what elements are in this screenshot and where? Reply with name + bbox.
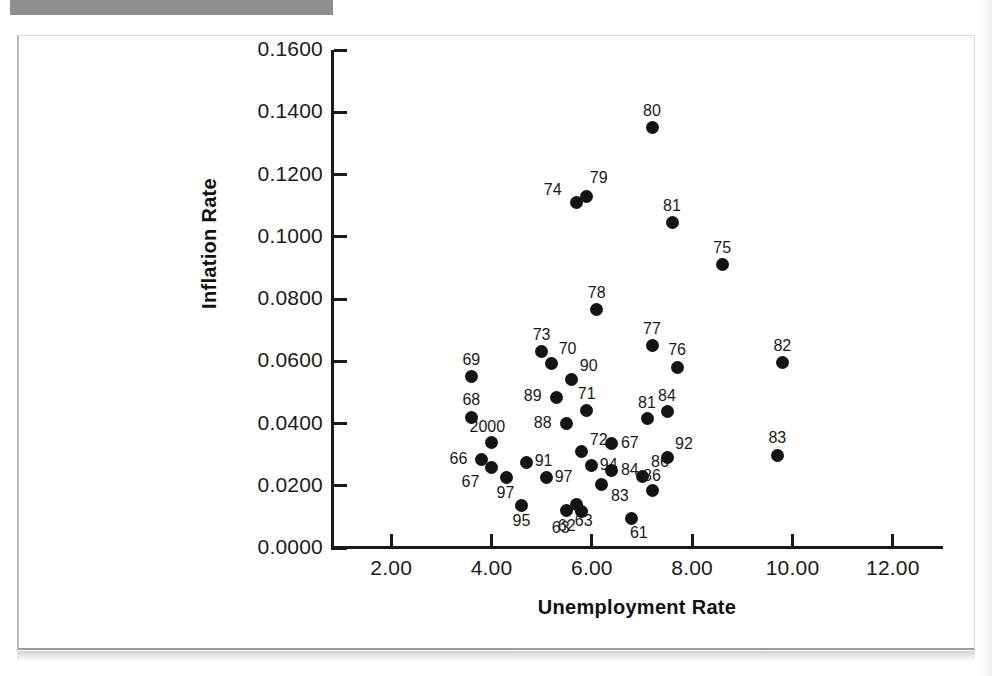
scan-artifact-gray-bar [10, 0, 333, 15]
data-point [641, 412, 654, 425]
x-axis-tick [691, 534, 694, 547]
data-point-label: 82 [773, 338, 791, 354]
data-point-label: 70 [559, 341, 577, 357]
x-axis-title: Unemployment Rate [331, 596, 943, 619]
data-point [716, 258, 729, 271]
scan-artifact-right-edge [978, 0, 992, 676]
data-point [550, 391, 563, 404]
y-axis-tick [334, 49, 347, 52]
y-axis-title: Inflation Rate [198, 144, 221, 344]
data-point [575, 505, 588, 518]
data-point-label: 69 [462, 352, 480, 368]
data-point-label: 63 [552, 520, 570, 536]
x-axis-tick [891, 534, 894, 547]
data-point-label: 81 [638, 395, 656, 411]
y-axis-tick-label: 0.0200 [213, 473, 323, 497]
y-axis-tick [334, 235, 347, 238]
data-point-label: 92 [675, 436, 693, 452]
data-point-label: 67 [621, 435, 639, 451]
data-point-label: 66 [449, 451, 467, 467]
data-point-label: 71 [578, 386, 596, 402]
data-point-label: 86 [643, 468, 661, 484]
data-point [520, 456, 533, 469]
y-axis-tick-label: 0.1000 [213, 224, 323, 248]
y-axis-tick-label: 0.1600 [213, 37, 323, 61]
data-point-label: 72 [590, 432, 608, 448]
data-point-label: 2000 [470, 419, 506, 435]
y-axis-tick-label: 0.1200 [213, 162, 323, 186]
data-point-label: 76 [668, 342, 686, 358]
data-point-label: 83 [611, 488, 629, 504]
data-point-label: 88 [534, 415, 552, 431]
data-point-label: 73 [533, 327, 551, 343]
data-point [646, 339, 659, 352]
x-axis-line [331, 546, 943, 549]
data-point-label: 80 [643, 103, 661, 119]
data-point-label: 97 [497, 485, 515, 501]
data-point-label: 95 [513, 513, 531, 529]
data-point [771, 449, 784, 462]
y-axis-tick-label: 0.0800 [213, 286, 323, 310]
y-axis-tick-label: 0.0000 [213, 535, 323, 559]
data-point [671, 361, 684, 374]
y-axis-tick [334, 173, 347, 176]
scan-artifact-bottom-edge [17, 651, 975, 660]
data-point-label: 97 [555, 469, 573, 485]
y-axis-tick [334, 360, 347, 363]
data-point [595, 478, 608, 491]
data-point-label: 77 [643, 321, 661, 337]
data-point [646, 484, 659, 497]
y-axis-tick [334, 422, 347, 425]
data-point-label: 75 [713, 240, 731, 256]
data-point-label: 91 [535, 453, 553, 469]
data-point-label: 83 [768, 430, 786, 446]
data-point-label: 79 [590, 170, 608, 186]
data-point-label: 61 [630, 525, 648, 541]
data-point-label: 78 [588, 285, 606, 301]
data-point-label: 81 [663, 198, 681, 214]
data-point-label: 68 [462, 392, 480, 408]
data-point-label: 89 [524, 388, 542, 404]
y-axis-tick [334, 111, 347, 114]
y-axis-tick-label: 0.0400 [213, 411, 323, 435]
data-point [666, 216, 679, 229]
y-axis-tick [334, 547, 347, 550]
data-point-label: 84 [658, 388, 676, 404]
x-axis-tick [791, 534, 794, 547]
data-point-label: 74 [544, 182, 562, 198]
x-axis-tick [490, 534, 493, 547]
x-axis-tick [390, 534, 393, 547]
data-point [485, 461, 498, 474]
y-axis-tick [334, 298, 347, 301]
data-point-label: 90 [580, 358, 598, 374]
y-axis-tick-label: 0.0600 [213, 348, 323, 372]
data-point [540, 471, 553, 484]
data-point-label: 67 [462, 474, 480, 490]
y-axis-tick-label: 0.1400 [213, 99, 323, 123]
y-axis-tick [334, 484, 347, 487]
data-point [580, 404, 593, 417]
x-axis-tick [590, 534, 593, 547]
x-axis-tick-label: 12.00 [833, 556, 953, 580]
data-point [646, 121, 659, 134]
